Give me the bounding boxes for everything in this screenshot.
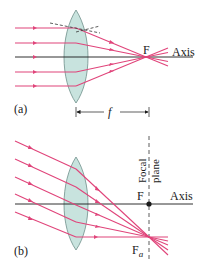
focal-length-label: f <box>108 105 113 119</box>
panel-b: F Axis Focal plane Fa (b) <box>14 136 193 262</box>
ray-direction-arrows-a <box>33 26 37 88</box>
off-axis-focus-subscript: a <box>139 249 144 259</box>
focal-point-label-b: F <box>137 189 144 203</box>
axis-label-b: Axis <box>170 189 193 203</box>
focal-point-dot <box>146 201 151 206</box>
focal-plane-label-line2: plane <box>149 159 161 183</box>
refracted-ray-arrows-a <box>109 40 114 73</box>
panel-label-a: (a) <box>14 102 27 116</box>
ray-direction-arrows-b <box>28 145 33 220</box>
converging-lens-a <box>64 10 88 103</box>
lens-diagram: F Axis (a) f <box>0 0 201 264</box>
off-axis-focus-label: Fa <box>132 243 144 259</box>
focal-plane-label-line1: Focal <box>136 159 148 183</box>
axis-label-a: Axis <box>172 45 195 59</box>
focal-point-label-a: F <box>143 43 150 57</box>
refracted-ray-arrows-b <box>94 186 100 239</box>
panel-a: F Axis (a) f <box>14 10 195 119</box>
panel-label-b: (b) <box>14 244 28 258</box>
converging-lens-b <box>64 157 88 250</box>
